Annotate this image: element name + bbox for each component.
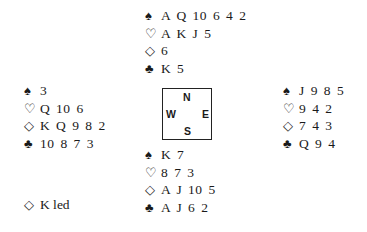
east-hand: ♠J 9 8 5 ♡9 4 2 ◇7 4 3 ♣Q 9 4 bbox=[283, 82, 344, 152]
lead-text: K led bbox=[40, 197, 70, 212]
compass-west: W bbox=[166, 108, 176, 120]
south-hearts: ♡8 7 3 bbox=[145, 164, 216, 182]
diamond-icon: ◇ bbox=[145, 42, 161, 60]
south-spades: ♠K 7 bbox=[145, 146, 216, 164]
east-hearts: ♡9 4 2 bbox=[283, 100, 344, 118]
club-icon: ♣ bbox=[145, 60, 161, 78]
compass-box: N W E S bbox=[162, 88, 212, 140]
north-clubs: ♣K 5 bbox=[145, 60, 246, 78]
north-spades: ♠A Q 10 6 4 2 bbox=[145, 7, 246, 25]
diamond-icon: ◇ bbox=[145, 181, 161, 199]
compass-east: E bbox=[202, 108, 209, 120]
heart-icon: ♡ bbox=[145, 164, 161, 182]
spade-icon: ♠ bbox=[24, 82, 40, 100]
north-hearts: ♡A K J 5 bbox=[145, 25, 246, 43]
heart-icon: ♡ bbox=[145, 25, 161, 43]
compass-south: S bbox=[184, 125, 191, 137]
west-spades: ♠3 bbox=[24, 82, 106, 100]
heart-icon: ♡ bbox=[283, 100, 299, 118]
opening-lead: ◇K led bbox=[24, 197, 70, 213]
south-clubs: ♣A J 6 2 bbox=[145, 199, 216, 217]
north-diamonds: ◇6 bbox=[145, 42, 246, 60]
east-diamonds: ◇7 4 3 bbox=[283, 117, 344, 135]
east-spades: ♠J 9 8 5 bbox=[283, 82, 344, 100]
east-clubs: ♣Q 9 4 bbox=[283, 135, 344, 153]
west-diamonds: ◇K Q 9 8 2 bbox=[24, 117, 106, 135]
club-icon: ♣ bbox=[283, 135, 299, 153]
club-icon: ♣ bbox=[145, 199, 161, 217]
west-clubs: ♣10 8 7 3 bbox=[24, 135, 106, 153]
compass-north: N bbox=[183, 91, 191, 103]
west-hand: ♠3 ♡Q 10 6 ◇K Q 9 8 2 ♣10 8 7 3 bbox=[24, 82, 106, 152]
diamond-icon: ◇ bbox=[283, 117, 299, 135]
spade-icon: ♠ bbox=[145, 7, 161, 25]
diamond-icon: ◇ bbox=[24, 197, 40, 213]
north-hand: ♠A Q 10 6 4 2 ♡A K J 5 ◇6 ♣K 5 bbox=[145, 7, 246, 77]
spade-icon: ♠ bbox=[283, 82, 299, 100]
south-hand: ♠K 7 ♡8 7 3 ◇A J 10 5 ♣A J 6 2 bbox=[145, 146, 216, 216]
spade-icon: ♠ bbox=[145, 146, 161, 164]
heart-icon: ♡ bbox=[24, 100, 40, 118]
west-hearts: ♡Q 10 6 bbox=[24, 100, 106, 118]
south-diamonds: ◇A J 10 5 bbox=[145, 181, 216, 199]
club-icon: ♣ bbox=[24, 135, 40, 153]
diamond-icon: ◇ bbox=[24, 117, 40, 135]
